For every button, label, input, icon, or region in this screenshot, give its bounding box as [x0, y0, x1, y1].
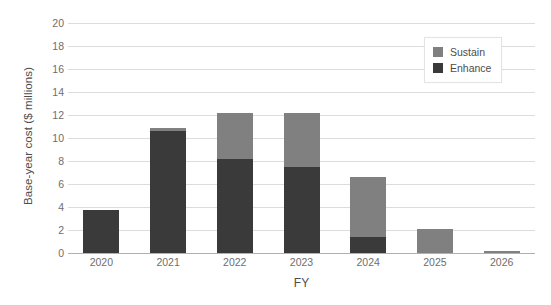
bar-segment-sustain[interactable]	[484, 251, 520, 253]
legend-swatch-sustain	[433, 47, 443, 57]
chart-legend: SustainEnhance	[424, 37, 502, 83]
bar-group[interactable]	[150, 23, 186, 253]
bar-segment-sustain[interactable]	[417, 229, 453, 253]
legend-label: Enhance	[450, 62, 491, 74]
bar-group[interactable]	[83, 23, 119, 253]
bar-group[interactable]	[284, 23, 320, 253]
bar-segment-sustain[interactable]	[217, 113, 253, 159]
bar-segment-enhance[interactable]	[83, 210, 119, 253]
bar-segment-sustain[interactable]	[284, 113, 320, 168]
y-axis-tick-label: 16	[24, 63, 64, 75]
y-axis-tick-label: 6	[24, 178, 64, 190]
legend-label: Sustain	[450, 46, 485, 58]
x-axis-tick-label: 2023	[268, 256, 335, 268]
y-axis-tick-label: 0	[24, 247, 64, 259]
bar-group[interactable]	[217, 23, 253, 253]
bar-segment-sustain[interactable]	[350, 177, 386, 237]
bar-chart: Base-year cost ($ millions) 024681012141…	[0, 0, 551, 305]
x-axis-title: FY	[68, 276, 535, 290]
bar-stack[interactable]	[150, 128, 186, 253]
y-axis-tick-label: 8	[24, 155, 64, 167]
y-axis-tick-label: 2	[24, 224, 64, 236]
bar-group[interactable]	[350, 23, 386, 253]
x-axis-tick-label: 2022	[201, 256, 268, 268]
x-axis-tick-label: 2021	[135, 256, 202, 268]
gridline	[68, 253, 535, 254]
x-axis-tick-label: 2025	[402, 256, 469, 268]
y-axis-tick-label: 20	[24, 17, 64, 29]
x-axis-tick-label: 2026	[468, 256, 535, 268]
y-axis-tick-labels: 02468101214161820	[20, 23, 64, 253]
bar-segment-enhance[interactable]	[350, 237, 386, 253]
y-axis-tick-label: 14	[24, 86, 64, 98]
y-axis-tick-label: 18	[24, 40, 64, 52]
x-axis-tick-label: 2020	[68, 256, 135, 268]
bar-stack[interactable]	[83, 210, 119, 253]
y-axis-tick-label: 4	[24, 201, 64, 213]
bar-segment-enhance[interactable]	[150, 131, 186, 253]
legend-item[interactable]: Sustain	[433, 44, 491, 60]
y-axis-tick-label: 10	[24, 132, 64, 144]
bar-stack[interactable]	[484, 251, 520, 253]
bar-segment-enhance[interactable]	[284, 167, 320, 253]
x-axis-tick-label: 2024	[335, 256, 402, 268]
bar-stack[interactable]	[350, 177, 386, 253]
bar-segment-enhance[interactable]	[217, 159, 253, 253]
bar-stack[interactable]	[217, 113, 253, 253]
bar-stack[interactable]	[284, 113, 320, 253]
x-axis-tick-labels: 2020202120222023202420252026	[68, 256, 535, 274]
legend-item[interactable]: Enhance	[433, 60, 491, 76]
y-axis-tick-label: 12	[24, 109, 64, 121]
legend-swatch-enhance	[433, 63, 443, 73]
bar-stack[interactable]	[417, 229, 453, 253]
